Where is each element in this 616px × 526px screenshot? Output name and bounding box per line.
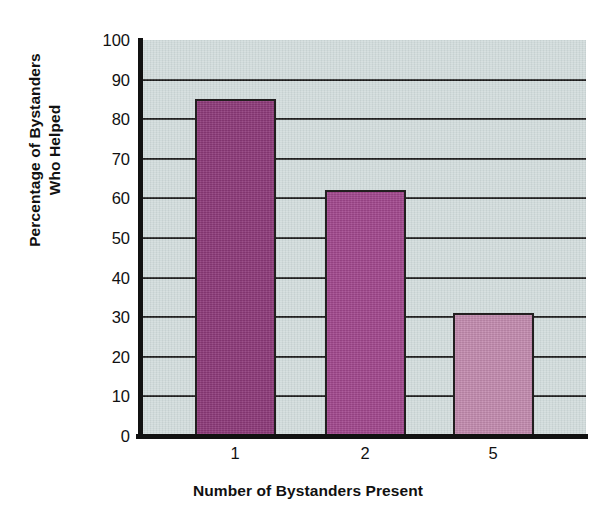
y-axis-tick-labels: 0102030405060708090100 — [86, 40, 130, 436]
plot-area — [138, 40, 586, 436]
y-tick-label-40: 40 — [86, 268, 130, 287]
bar-1 — [195, 99, 276, 436]
gridline-90 — [138, 79, 586, 81]
bar-texture — [327, 192, 404, 434]
y-tick-label-100: 100 — [86, 31, 130, 50]
y-axis-title: Percentage of Bystanders Who Helped — [15, 20, 75, 280]
y-tick-label-90: 90 — [86, 70, 130, 89]
y-axis-title-line-2: Who Helped — [45, 105, 65, 196]
y-tick-label-0: 0 — [86, 427, 130, 446]
y-tick-label-50: 50 — [86, 229, 130, 248]
x-tick-label-1: 1 — [200, 444, 270, 463]
y-tick-label-10: 10 — [86, 387, 130, 406]
y-tick-label-70: 70 — [86, 149, 130, 168]
bar-texture — [197, 101, 274, 434]
x-axis-tick-labels: 125 — [138, 444, 586, 472]
y-axis-line — [138, 38, 143, 438]
bar-texture — [455, 315, 532, 434]
x-tick-label-5: 5 — [458, 444, 528, 463]
bar-2 — [325, 190, 406, 436]
x-axis-line — [136, 434, 588, 439]
x-axis-title: Number of Bystanders Present — [0, 482, 616, 500]
x-tick-label-2: 2 — [330, 444, 400, 463]
bar-5 — [453, 313, 534, 436]
y-tick-label-20: 20 — [86, 347, 130, 366]
y-tick-label-80: 80 — [86, 110, 130, 129]
y-axis-title-line-1: Percentage of Bystanders — [25, 53, 45, 247]
y-tick-label-60: 60 — [86, 189, 130, 208]
y-tick-label-30: 30 — [86, 308, 130, 327]
